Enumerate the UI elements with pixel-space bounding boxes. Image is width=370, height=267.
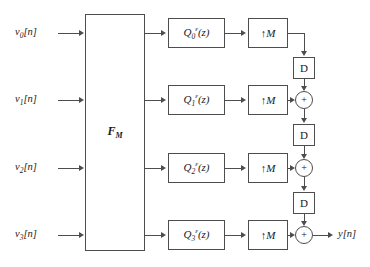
upsampler-label-0: ↑M: [261, 28, 276, 39]
adder-sign-1: +: [301, 163, 307, 173]
delay-label-1: D: [300, 130, 308, 141]
adder-node-0: +: [295, 91, 313, 109]
arrowhead-output: [328, 232, 333, 238]
wire-output: [313, 235, 329, 236]
wire-input-3: [58, 235, 80, 236]
upsampler-label-3: ↑M: [261, 230, 276, 241]
input-label-v1: v1[n]: [15, 94, 37, 107]
matrix-block-label: FM: [107, 125, 122, 140]
wire-input-2: [58, 168, 80, 169]
wire-q3-to-up3: [225, 235, 242, 236]
arrowhead-delay0-in: [301, 51, 307, 56]
input-label-v2: v2[n]: [15, 162, 37, 175]
input-label-v3: v3[n]: [15, 229, 37, 242]
arrowhead-input-3: [79, 232, 84, 238]
wire-up0-down: [304, 33, 305, 52]
adder-sign-0: +: [301, 95, 307, 105]
delay-block-1: D: [293, 124, 315, 146]
filter-block-q0: Q0ε(z): [168, 18, 225, 48]
matrix-block-fm: FM: [85, 14, 145, 251]
wire-fm-to-q3: [145, 235, 162, 236]
arrowhead-delay2-in: [301, 186, 307, 191]
upsampler-label-1: ↑M: [261, 95, 276, 106]
adder-node-2: +: [295, 226, 313, 244]
delay-label-0: D: [300, 63, 308, 74]
delay-block-0: D: [293, 57, 315, 79]
filter-label-q0: Q0ε(z): [183, 26, 209, 40]
filter-label-q2: Q2ε(z): [183, 161, 209, 175]
filter-label-q1: Q1ε(z): [183, 93, 209, 107]
arrowhead-delay1-in: [301, 118, 307, 123]
wire-q1-to-up1: [225, 100, 242, 101]
filter-label-q3: Q3ε(z): [183, 228, 209, 242]
adder-node-1: +: [295, 159, 313, 177]
wire-input-1: [58, 100, 80, 101]
wire-input-0: [58, 33, 80, 34]
upsampler-block-0: ↑M: [248, 18, 288, 48]
arrowhead-up1-in: [241, 97, 246, 103]
wire-fm-to-q2: [145, 168, 162, 169]
upsampler-block-3: ↑M: [248, 220, 288, 250]
input-label-v0: v0[n]: [15, 27, 37, 40]
filter-block-q2: Q2ε(z): [168, 153, 225, 183]
wire-fm-to-q1: [145, 100, 162, 101]
arrowhead-q1-in: [161, 97, 166, 103]
upsampler-label-2: ↑M: [261, 163, 276, 174]
arrowhead-q0-in: [161, 30, 166, 36]
arrowhead-input-0: [79, 30, 84, 36]
upsampler-block-1: ↑M: [248, 85, 288, 115]
wire-up0-right: [288, 33, 305, 34]
wire-fm-to-q0: [145, 33, 162, 34]
arrowhead-q3-in: [161, 232, 166, 238]
block-diagram: v0[n] v1[n] v2[n] v3[n] FM Q0ε(z) Q1ε(z)…: [0, 0, 370, 267]
arrowhead-input-1: [79, 97, 84, 103]
filter-block-q1: Q1ε(z): [168, 85, 225, 115]
arrowhead-up0-in: [241, 30, 246, 36]
upsampler-block-2: ↑M: [248, 153, 288, 183]
delay-label-2: D: [300, 198, 308, 209]
wire-q0-to-up0: [225, 33, 242, 34]
filter-block-q3: Q3ε(z): [168, 220, 225, 250]
delay-block-2: D: [293, 192, 315, 214]
arrowhead-up2-in: [241, 165, 246, 171]
arrowhead-q2-in: [161, 165, 166, 171]
wire-q2-to-up2: [225, 168, 242, 169]
adder-sign-2: +: [301, 230, 307, 240]
arrowhead-input-2: [79, 165, 84, 171]
output-label-y: y[n]: [338, 229, 356, 240]
arrowhead-up3-in: [241, 232, 246, 238]
